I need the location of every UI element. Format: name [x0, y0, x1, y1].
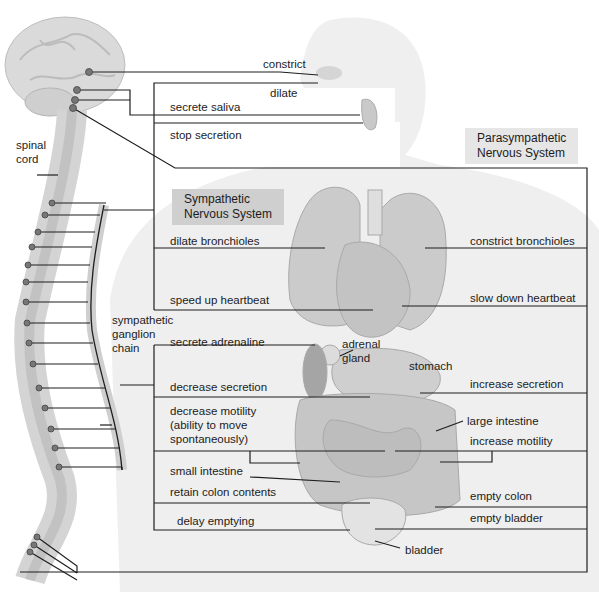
effect-secrete-adrenaline: secrete adrenaline — [170, 335, 265, 349]
effect-increase-secretion: increase secretion — [470, 377, 563, 391]
effect-speed-up-heartbeat: speed up heartbeat — [170, 293, 269, 307]
small-intestine-label: small intestine — [170, 464, 243, 478]
effect-retain-colon-contents: retain colon contents — [170, 485, 276, 499]
effect-empty-bladder: empty bladder — [470, 511, 543, 525]
sympathetic-system-label: Sympathetic Nervous System — [172, 189, 284, 225]
bladder-label: bladder — [405, 543, 443, 557]
spinal-column-icon — [29, 110, 72, 580]
effect-constrict: constrict — [263, 57, 306, 71]
large-intestine-label: large intestine — [467, 414, 539, 428]
effect-constrict-bronchioles: constrict bronchioles — [470, 234, 575, 248]
brain-icon — [5, 17, 125, 116]
effect-decrease-motility: decrease motility (ability to move spont… — [170, 404, 256, 446]
effect-dilate-bronchioles: dilate bronchioles — [170, 234, 260, 248]
spinal-cord-label: spinal cord — [16, 138, 46, 166]
stomach-label: stomach — [409, 359, 452, 373]
ganglion-chain-label: sympathetic ganglion chain — [112, 313, 173, 355]
effect-secrete-saliva: secrete saliva — [170, 100, 240, 114]
autonomic-nervous-system-diagram: Sympathetic Nervous System Parasympathet… — [0, 0, 599, 592]
effect-delay-emptying: delay emptying — [177, 514, 254, 528]
eye-icon — [316, 66, 342, 80]
adrenal-gland-label: adrenal gland — [342, 337, 380, 365]
effect-slow-down-heartbeat: slow down heartbeat — [470, 291, 575, 305]
effect-dilate: dilate — [270, 86, 298, 100]
effect-decrease-secretion: decrease secretion — [170, 380, 267, 394]
parasympathetic-system-label: Parasympathetic Nervous System — [465, 128, 578, 164]
effect-empty-colon: empty colon — [470, 489, 532, 503]
effect-increase-motility: increase motility — [470, 434, 552, 448]
effect-stop-secretion: stop secretion — [170, 128, 242, 142]
